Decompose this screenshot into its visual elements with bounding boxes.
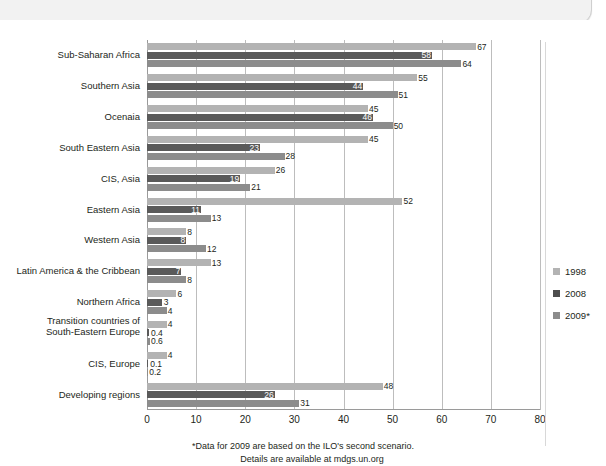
x-axis-tick-label: 10	[191, 414, 202, 425]
bar-2008-1: 58	[147, 52, 432, 59]
chart-row: Sub-Saharan Africa675864	[147, 43, 540, 67]
bar-2009-6: 13	[147, 215, 211, 222]
bar-value-label: 46	[363, 113, 372, 122]
chart-row: South Eastern Asia452328	[147, 136, 540, 160]
chart-row: CIS, Asia261921	[147, 167, 540, 191]
bar-2008-10: 0.4	[147, 329, 149, 336]
legend-label-1998: 1998	[565, 266, 586, 277]
gridline-80	[540, 40, 541, 410]
bar-value-label: 50	[392, 121, 403, 130]
chart-row: CIS, Europe40.10.2	[147, 352, 540, 376]
category-label: CIS, Asia	[101, 173, 140, 184]
bar-2008-12: 26	[147, 391, 275, 398]
bar-2008-8: 7	[147, 268, 181, 275]
bar-2008-5: 19	[147, 175, 240, 182]
bar-1998-9: 6	[147, 290, 176, 297]
category-label: Sub-Saharan Africa	[58, 49, 140, 60]
bar-value-label: 0.6	[149, 337, 163, 346]
category-label: Southern Asia	[81, 80, 140, 91]
chart-row: Ocenaia454650	[147, 105, 540, 129]
bar-value-label: 4	[166, 351, 173, 360]
bar-value-label: 52	[401, 197, 412, 206]
bar-value-label: 31	[298, 399, 309, 408]
bar-2009-11: 0.2	[147, 369, 148, 376]
footnote-line-1: *Data for 2009 are based on the ILO's se…	[0, 440, 606, 453]
bar-value-label: 19	[230, 174, 239, 183]
legend-item-1998[interactable]: 1998	[553, 266, 605, 277]
bar-value-label: 26	[264, 390, 273, 399]
bar-1998-5: 26	[147, 167, 275, 174]
bar-value-label: 64	[460, 59, 471, 68]
bar-value-label: 11	[191, 205, 200, 214]
bar-2009-8: 8	[147, 276, 186, 283]
chart-row: Western Asia8812	[147, 228, 540, 252]
legend-swatch-2008	[553, 290, 560, 297]
bar-value-label: 8	[185, 227, 192, 236]
category-label: CIS, Europe	[88, 358, 140, 369]
category-label: Northern Africa	[77, 296, 140, 307]
category-label: Developing regions	[59, 389, 140, 400]
bar-value-label: 58	[421, 51, 430, 60]
x-axis-tick-label: 60	[436, 414, 447, 425]
bar-2009-10: 0.6	[147, 338, 150, 345]
x-axis-tick-label: 70	[485, 414, 496, 425]
x-axis-tick-label: 80	[534, 414, 545, 425]
legend-swatch-2009	[553, 312, 560, 319]
bar-2009-4: 28	[147, 153, 285, 160]
legend-swatch-1998	[553, 268, 560, 275]
bar-2008-3: 46	[147, 114, 373, 121]
bar-2008-4: 23	[147, 144, 260, 151]
bar-2009-3: 50	[147, 122, 393, 129]
chart-row: Southern Asia554451	[147, 74, 540, 98]
plot-area: 01020304050607080Sub-Saharan Africa67586…	[147, 40, 540, 410]
category-label: Ocenaia	[105, 111, 140, 122]
bar-value-label: 51	[397, 90, 408, 99]
bar-value-label: 44	[353, 82, 362, 91]
legend-label-2009: 2009*	[565, 310, 590, 321]
category-label: Eastern Asia	[87, 204, 140, 215]
chart-row: Eastern Asia521113	[147, 198, 540, 222]
bar-value-label: 4	[166, 306, 173, 315]
bar-2008-7: 8	[147, 237, 186, 244]
legend-item-2009[interactable]: 2009*	[553, 310, 605, 321]
bar-2009-2: 51	[147, 91, 398, 98]
chart-row: Developing regions482631	[147, 383, 540, 407]
legend-item-2008[interactable]: 2008	[553, 288, 605, 299]
chart-legend: 1998 2008 2009*	[553, 266, 605, 332]
bar-1998-2: 55	[147, 74, 417, 81]
bar-value-label: 13	[210, 258, 221, 267]
bar-value-label: 8	[181, 236, 186, 245]
bar-value-label: 21	[249, 183, 260, 192]
bar-2009-12: 31	[147, 400, 299, 407]
chart-footnote: *Data for 2009 are based on the ILO's se…	[0, 440, 606, 466]
chart-row: Northern Africa634	[147, 290, 540, 314]
category-label: Western Asia	[84, 234, 140, 245]
category-label: South Eastern Asia	[59, 142, 140, 153]
bar-value-label: 13	[210, 214, 221, 223]
horizontal-bar-chart: 01020304050607080Sub-Saharan Africa67586…	[0, 22, 606, 463]
bar-value-label: 4	[166, 320, 173, 329]
bar-2009-5: 21	[147, 184, 250, 191]
bar-2009-1: 64	[147, 60, 461, 67]
bar-2008-2: 44	[147, 83, 363, 90]
category-label: Transition countries ofSouth-Eastern Eur…	[0, 315, 140, 337]
page-corner-shape	[0, 0, 592, 22]
bar-value-label: 23	[250, 143, 259, 152]
bar-value-label: 45	[367, 135, 378, 144]
x-axis-tick-label: 0	[144, 414, 150, 425]
bar-value-label: 7	[176, 267, 181, 276]
footnote-line-2: Details are available at mdgs.un.org	[0, 453, 606, 466]
x-axis-tick-label: 50	[387, 414, 398, 425]
bar-value-label: 6	[175, 289, 182, 298]
bar-value-label: 26	[274, 166, 285, 175]
x-axis-tick-label: 40	[338, 414, 349, 425]
bar-value-label: 12	[205, 244, 216, 253]
x-axis-tick-label: 20	[240, 414, 251, 425]
bar-value-label: 8	[185, 275, 192, 284]
bar-value-label: 48	[382, 382, 393, 391]
chart-row: Latin America & the Cribbean1378	[147, 259, 540, 283]
bar-1998-6: 52	[147, 198, 402, 205]
bar-2009-7: 12	[147, 245, 206, 252]
bar-value-label: 0.2	[147, 368, 161, 377]
bar-2008-6: 11	[147, 206, 201, 213]
